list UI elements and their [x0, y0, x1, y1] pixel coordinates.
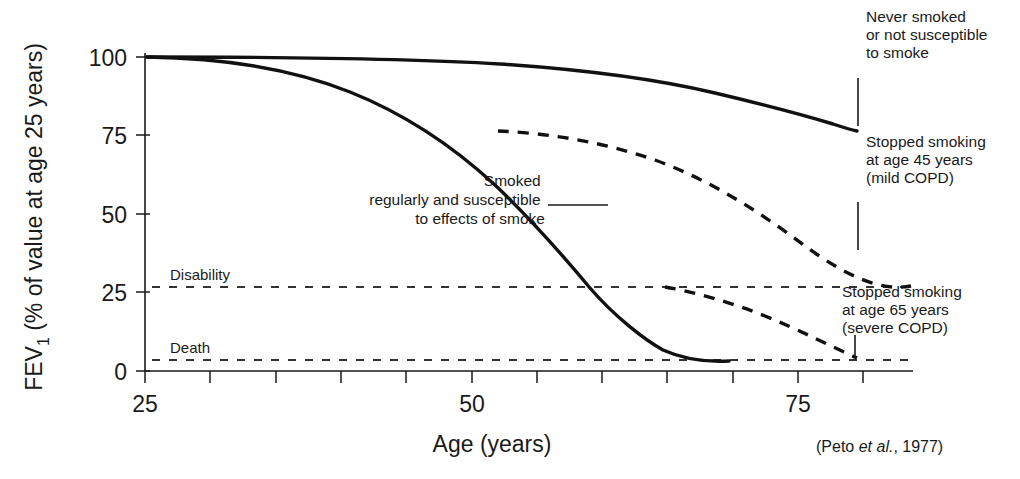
- disability-threshold-label: Disability: [170, 266, 231, 283]
- annot-never-smoked-line1: Never smoked: [866, 8, 966, 25]
- curve-mild-copd: [498, 131, 911, 287]
- death-threshold-label: Death: [170, 339, 210, 356]
- y-tick-labels-group: 100 75 50 25 0: [89, 45, 127, 385]
- source-italic: et al.: [859, 438, 894, 455]
- x-ticks-group: [145, 371, 863, 383]
- fev1-decline-chart: 100 75 50 25 0 25 50 75 Age (yea: [0, 0, 1020, 479]
- y-axis-title-main: FEV: [21, 345, 47, 390]
- source-citation: (Peto et al., 1977): [816, 438, 943, 455]
- annotation-smoked-regularly: Smoked regularly and susceptible to effe…: [369, 172, 545, 227]
- x-tick-labels-group: 25 50 75: [132, 391, 811, 417]
- y-tick-label-100: 100: [89, 45, 127, 71]
- curve-severe-copd: [665, 287, 857, 358]
- threshold-lines-group: Disability Death: [152, 266, 913, 360]
- leader-lines-group: [548, 78, 858, 357]
- y-tick-label-75: 75: [101, 123, 127, 149]
- annot-severe-copd-line3: (severe COPD): [842, 319, 948, 336]
- annot-smoked-line3: to effects of smoke: [415, 210, 545, 227]
- source-prefix: (Peto: [816, 438, 859, 455]
- annot-mild-copd-line2: at age 45 years: [866, 151, 973, 168]
- svg-text:Stopped smoking at age: Stopped smoking at age 65 years (severe …: [842, 283, 966, 336]
- annot-severe-copd-line2: at age 65 years: [842, 301, 949, 318]
- y-tick-label-0: 0: [114, 359, 127, 385]
- annotation-severe-copd: Stopped smoking at age 65 years (severe …: [842, 283, 966, 336]
- x-tick-label-75: 75: [785, 391, 811, 417]
- y-tick-label-50: 50: [101, 202, 127, 228]
- svg-text:Stopped smoking at age: Stopped smoking at age 45 years (mild CO…: [866, 133, 990, 186]
- x-tick-label-25: 25: [132, 391, 158, 417]
- source-suffix: , 1977): [893, 438, 943, 455]
- annot-mild-copd-line1: Stopped smoking: [866, 133, 986, 150]
- x-axis-title: Age (years): [433, 431, 552, 457]
- annot-severe-copd-line1: Stopped smoking: [842, 283, 962, 300]
- y-axis-title-rest: (% of value at age 25 years): [21, 43, 47, 337]
- annotation-never-smoked: Never smoked or not susceptible to smoke: [866, 8, 992, 61]
- annotation-mild-copd: Stopped smoking at age 45 years (mild CO…: [866, 133, 990, 186]
- annot-never-smoked-line2: or not susceptible: [866, 26, 988, 43]
- chart-canvas: 100 75 50 25 0 25 50 75 Age (yea: [0, 0, 1020, 479]
- y-axis-title: FEV1 (% of value at age 25 years): [21, 43, 52, 391]
- x-tick-label-50: 50: [459, 391, 485, 417]
- curve-never-smoked-path: [147, 57, 857, 131]
- annot-mild-copd-line3: (mild COPD): [866, 169, 954, 186]
- y-ticks-group: [136, 57, 150, 371]
- annot-never-smoked-line3: to smoke: [866, 44, 929, 61]
- y-axis-title-subscript: 1: [35, 337, 52, 346]
- svg-text:FEV1 (% of value at age 25 yea: FEV1 (% of value at age 25 years): [21, 43, 52, 391]
- y-tick-label-25: 25: [101, 280, 127, 306]
- annot-smoked-line1: Smoked: [484, 172, 541, 189]
- svg-text:Never smoked or not su: Never smoked or not susceptible to smoke: [866, 8, 992, 61]
- annot-smoked-line2: regularly and susceptible: [369, 191, 540, 208]
- svg-text:Smoked regularly and s: Smoked regularly and susceptible to effe…: [369, 172, 545, 227]
